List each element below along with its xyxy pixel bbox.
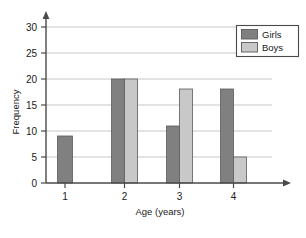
bar-boys-age-3 — [180, 89, 193, 183]
y-tick-label-30: 30 — [26, 22, 38, 33]
legend: Girls Boys — [237, 26, 299, 57]
y-axis-title: Frequency — [10, 89, 21, 134]
legend-label-boys: Boys — [262, 42, 283, 53]
x-tick-label-2: 2 — [122, 191, 128, 202]
x-tick-label-1: 1 — [62, 191, 68, 202]
y-tick-label-0: 0 — [31, 178, 37, 189]
bar-girls-age-1 — [58, 136, 73, 183]
y-tick-label-5: 5 — [31, 152, 37, 163]
bar-girls-age-2 — [112, 79, 125, 183]
x-tick-label-3: 3 — [177, 191, 183, 202]
y-tick-label-10: 10 — [26, 126, 38, 137]
chart-canvas: 30 25 20 15 10 5 0 Frequency 1 2 3 4 A — [0, 0, 306, 238]
x-tick-label-4: 4 — [231, 191, 237, 202]
legend-label-girls: Girls — [262, 29, 282, 40]
y-tick-label-20: 20 — [26, 74, 38, 85]
bar-boys-age-2 — [125, 79, 138, 183]
bar-girls-age-4 — [221, 89, 234, 183]
x-axis-title: Age (years) — [135, 206, 184, 217]
y-tick-label-25: 25 — [26, 48, 38, 59]
legend-swatch-girls — [242, 30, 258, 40]
bar-boys-age-4 — [234, 157, 247, 183]
bar-chart: 30 25 20 15 10 5 0 Frequency 1 2 3 4 A — [0, 0, 306, 238]
legend-swatch-boys — [242, 43, 258, 53]
y-tick-label-15: 15 — [26, 100, 38, 111]
bar-girls-age-3 — [167, 126, 180, 183]
